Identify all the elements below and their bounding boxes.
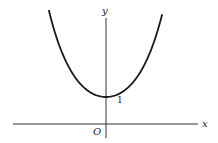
cosh-curve <box>49 10 162 97</box>
catenary-plot: x y O 1 <box>0 0 218 143</box>
y-axis-label: y <box>101 5 108 16</box>
origin-label: O <box>93 126 101 137</box>
intercept-label: 1 <box>117 95 123 105</box>
x-axis-label: x <box>202 118 208 129</box>
